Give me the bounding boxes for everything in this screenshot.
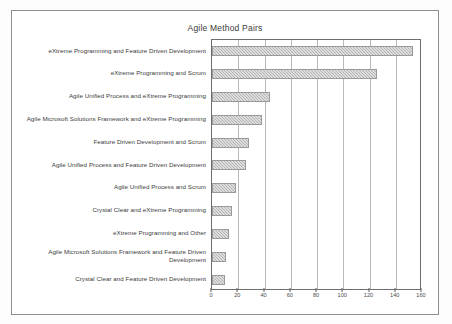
category-label: eXtreme Programming and Scrum <box>111 69 209 77</box>
bar <box>212 252 226 262</box>
bar <box>212 115 262 125</box>
category-label-row: eXtreme Programming and Other <box>26 222 209 245</box>
category-label-row: Crystal Clear and Feature Driven Develop… <box>26 267 209 290</box>
bar <box>212 275 225 285</box>
bar-row <box>212 108 420 131</box>
x-tick-label: 60 <box>287 292 293 298</box>
bar-row <box>212 223 420 246</box>
x-tick-label: 160 <box>416 292 425 298</box>
x-tick-label: 100 <box>338 292 347 298</box>
category-label-row: Agile Microsoft Solutions Framework and … <box>26 244 209 267</box>
category-label-row: eXtreme Programming and Feature Driven D… <box>26 39 209 62</box>
bar <box>212 206 232 216</box>
category-label-row: Agile Microsoft Solutions Framework and … <box>26 107 209 130</box>
bar-row <box>212 40 420 63</box>
category-label: Agile Unified Process and Feature Driven… <box>52 161 209 169</box>
plot-area <box>211 39 421 290</box>
bar <box>212 183 236 193</box>
bar <box>212 46 413 56</box>
bar-series <box>212 40 420 289</box>
bar-row <box>212 154 420 177</box>
x-tick-label: 80 <box>313 292 319 298</box>
category-label-row: eXtreme Programming and Scrum <box>26 62 209 85</box>
bar-row <box>212 200 420 223</box>
bar-row <box>212 245 420 268</box>
category-label-row: Feature Driven Development and Scrum <box>26 130 209 153</box>
category-label-row: Agile Unified Process and Scrum <box>26 176 209 199</box>
chart-frame: Agile Method Pairs eXtreme Programming a… <box>11 10 439 315</box>
bar-row <box>212 63 420 86</box>
bar <box>212 69 377 79</box>
x-tick-label: 40 <box>260 292 266 298</box>
category-label: eXtreme Programming and Other <box>113 229 209 237</box>
category-label: Agile Unified Process and eXtreme Progra… <box>69 92 209 100</box>
value-axis-labels: 020406080100120140160 <box>211 292 421 306</box>
bar <box>212 160 246 170</box>
bar <box>212 138 249 148</box>
x-tick-label: 120 <box>364 292 373 298</box>
category-axis-labels: eXtreme Programming and Feature Driven D… <box>26 39 209 290</box>
bar-row <box>212 131 420 154</box>
bar <box>212 229 229 239</box>
x-tick-label: 20 <box>234 292 240 298</box>
category-label-row: Agile Unified Process and Feature Driven… <box>26 153 209 176</box>
category-label-row: Crystal Clear and eXtreme Programming <box>26 199 209 222</box>
category-label: Agile Microsoft Solutions Framework and … <box>26 248 209 263</box>
category-label: Agile Microsoft Solutions Framework and … <box>27 115 209 123</box>
category-label: eXtreme Programming and Feature Driven D… <box>48 47 209 55</box>
bar-row <box>212 86 420 109</box>
bar <box>212 92 270 102</box>
category-label-row: Agile Unified Process and eXtreme Progra… <box>26 85 209 108</box>
category-label: Crystal Clear and eXtreme Programming <box>92 206 209 214</box>
category-label: Feature Driven Development and Scrum <box>93 138 209 146</box>
category-label: Agile Unified Process and Scrum <box>114 183 209 191</box>
x-tick-label: 0 <box>209 292 212 298</box>
x-tick-label: 140 <box>390 292 399 298</box>
bar-row <box>212 177 420 200</box>
category-label: Crystal Clear and Feature Driven Develop… <box>75 275 209 283</box>
chart-container: eXtreme Programming and Feature Driven D… <box>12 11 440 316</box>
